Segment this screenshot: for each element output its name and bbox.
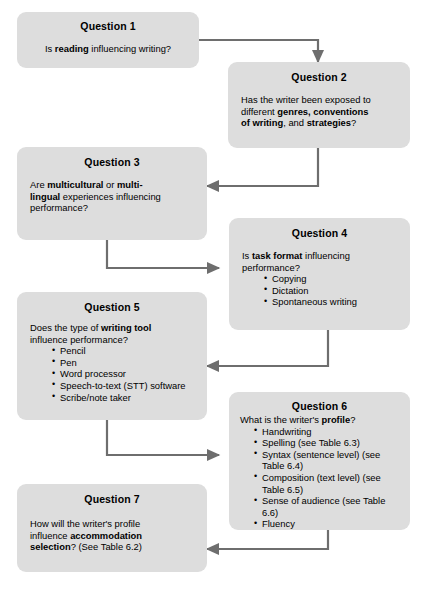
node-bullet-item: Syntax (sentence level) (see Table 6.4) <box>254 449 399 472</box>
node-bullet-list: PencilPenWord processorSpeech-to-text (S… <box>30 345 194 403</box>
node-body: Does the type of writing toolinfluence p… <box>30 322 194 345</box>
node-bullet-item: Handwriting <box>254 426 399 438</box>
node-question-3[interactable]: Question 3 Are multicultural or multi-li… <box>17 147 207 240</box>
node-body: Is reading influencing writing? <box>29 43 187 55</box>
node-body: Are multicultural or multi-lingual exper… <box>30 179 194 214</box>
node-body: How will the writer's profileinfluence a… <box>30 518 194 553</box>
node-bullet-item: Scribe/note taker <box>52 392 194 404</box>
node-bullet-item: Pencil <box>52 345 194 357</box>
node-bullet-item: Spontaneous writing <box>264 296 397 308</box>
node-bullet-list: HandwritingSpelling (see Table 6.3)Synta… <box>240 426 399 530</box>
node-bullet-item: Word processor <box>52 368 194 380</box>
node-bullet-item: Pen <box>52 357 194 369</box>
arrow-q6-to-q7 <box>207 530 328 549</box>
arrow-q5-to-q6 <box>107 420 219 455</box>
node-bullet-item: Copying <box>264 273 397 285</box>
node-question-2[interactable]: Question 2 Has the writer been exposed t… <box>228 62 410 148</box>
node-title: Question 6 <box>240 400 399 412</box>
node-bullet-item: Fluency <box>254 518 399 530</box>
node-question-6[interactable]: Question 6 What is the writer's profile?… <box>229 392 410 530</box>
node-question-5[interactable]: Question 5 Does the type of writing tool… <box>17 292 207 420</box>
node-bullet-item: Sense of audience (see Table 6.6) <box>254 495 399 518</box>
node-bullet-item: Speech-to-text (STT) software <box>52 380 194 392</box>
node-title: Question 7 <box>30 493 194 505</box>
arrow-q2-to-q3 <box>207 148 318 186</box>
node-body: What is the writer's profile? <box>240 414 399 426</box>
node-bullet-item: Composition (text level) (see Table 6.5) <box>254 472 399 495</box>
arrow-q4-to-q5 <box>207 330 328 366</box>
arrow-q1-to-q2 <box>199 40 318 62</box>
arrow-q3-to-q4 <box>107 240 219 268</box>
node-body: Is task format influencingperformance? <box>242 250 397 273</box>
node-bullet-item: Spelling (see Table 6.3) <box>254 437 399 449</box>
node-title: Question 3 <box>30 156 194 168</box>
node-question-7[interactable]: Question 7 How will the writer's profile… <box>17 484 207 572</box>
node-title: Question 1 <box>29 20 187 32</box>
node-question-1[interactable]: Question 1 Is reading influencing writin… <box>17 12 199 68</box>
node-title: Question 5 <box>30 301 194 313</box>
node-title: Question 4 <box>242 227 397 239</box>
flowchart-canvas: Question 1 Is reading influencing writin… <box>0 0 427 589</box>
node-bullet-list: CopyingDictationSpontaneous writing <box>242 273 397 308</box>
node-body: Has the writer been exposed todifferent … <box>241 94 397 129</box>
node-title: Question 2 <box>241 71 397 83</box>
node-question-4[interactable]: Question 4 Is task format influencingper… <box>229 218 410 330</box>
node-bullet-item: Dictation <box>264 285 397 297</box>
